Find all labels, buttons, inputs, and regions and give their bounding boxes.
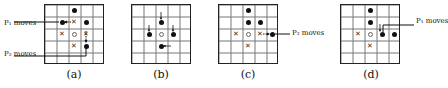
panel-d: ✕ ✕ [340,4,400,64]
p1-moves-callout-a: P₁ moves [4,19,36,27]
dot [80,16,92,28]
cross-mark: ✕ [254,28,266,40]
cross-mark: ✕ [364,40,376,52]
center-circle [242,28,254,40]
dot [364,16,376,28]
center-circle [68,28,80,40]
cross-mark: ✕ [352,28,364,40]
dot [155,16,167,28]
panel-label-c: (c) [233,68,263,81]
dot [364,4,376,16]
cross-mark: ✕ [80,28,92,40]
panel-label-a: (a) [59,68,89,81]
p1-moves-callout-d: P₁ moves [416,17,448,25]
cross-mark: ✕ [68,40,80,52]
cross-mark: ✕ [242,40,254,52]
panel-a: ✕ ✕ ✕ ✕ [44,4,104,64]
dot [254,16,266,28]
panel-c: ✕ ✕ ✕ [218,4,278,64]
dot [167,28,179,40]
dot [68,4,80,16]
cross-mark: ✕ [56,28,68,40]
dot [80,40,92,52]
dot [242,16,254,28]
dot [266,28,278,40]
panel-label-b: (b) [146,68,176,81]
cross-mark: ✕ [230,28,242,40]
center-circle [364,28,376,40]
cross-mark: ✕ [68,16,80,28]
center-circle [155,28,167,40]
panel-label-d: (d) [356,68,386,81]
dot [155,40,167,52]
dot [143,28,155,40]
panel-b [131,4,191,64]
p2-moves-callout-c: P₂ moves [292,29,324,37]
dot [388,28,400,40]
dot [376,28,388,40]
p2-moves-callout-a: P₂ moves [4,50,36,58]
dot [242,4,254,16]
dot [56,16,68,28]
